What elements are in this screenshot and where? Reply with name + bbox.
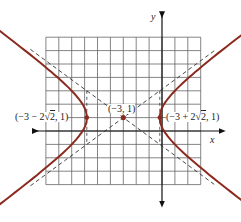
y-axis-label: y [151, 12, 155, 22]
left-vertex-label-post: , 1) [55, 111, 68, 122]
left-vertex-label-pre: (−3 − 2 [15, 111, 45, 122]
hyperbola-graph: y x (−3, 1) (−3 − 2√2, 1) (−3 + 2√2, 1) [0, 0, 241, 222]
right-vertex-label-post: , 1) [206, 111, 219, 122]
center-label: (−3, 1) [108, 104, 135, 114]
right-vertex-label-pre: (−3 + 2 [166, 111, 196, 122]
right-vertex-label: (−3 + 2√2, 1) [166, 112, 219, 122]
left-vertex-label: (−3 − 2√2, 1) [15, 112, 68, 122]
x-axis-label: x [210, 135, 214, 145]
